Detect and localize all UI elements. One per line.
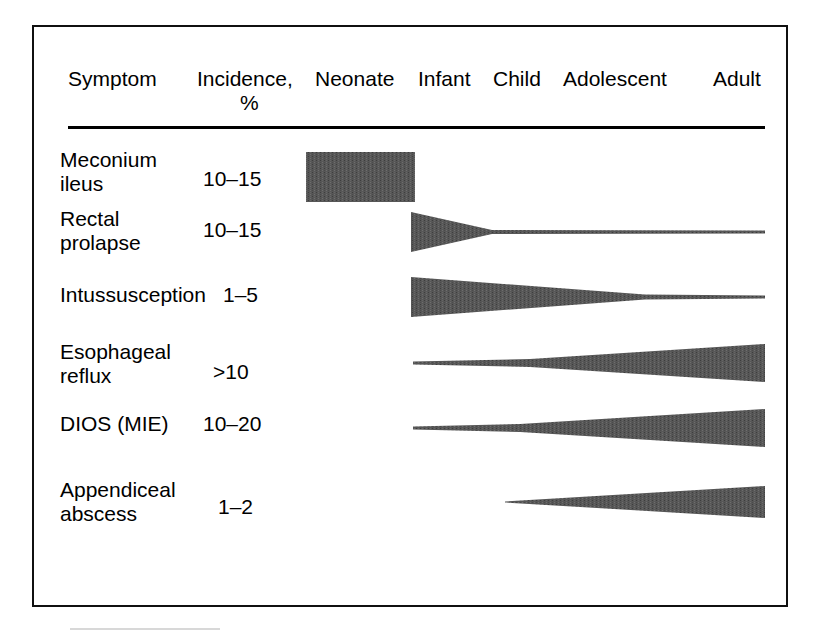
row-label-rectal-prolapse: Rectal prolapse [60,207,141,254]
row-label-intussusception: Intussusception [60,283,206,307]
header-divider-rule [68,126,765,129]
row-label-meconium-ileus: Meconium ileus [60,148,157,195]
row-incidence-meconium-ileus: 10–15 [203,167,261,191]
row-label-esophageal-reflux: Esophageal reflux [60,340,171,387]
row-incidence-dios-mie: 10–20 [203,412,261,436]
row-incidence-esophageal-reflux: >10 [213,360,249,384]
column-header-child: Child [493,68,541,90]
column-header-neonate: Neonate [315,68,394,90]
column-header-percent: % [240,92,259,114]
figure-root: Symptom Incidence, % Neonate Infant Chil… [0,0,814,637]
row-label-dios-mie: DIOS (MIE) [60,412,169,436]
row-incidence-appendiceal-abscess: 1–2 [218,495,253,519]
column-header-adolescent: Adolescent [563,68,667,90]
scan-artifact-line [70,628,220,630]
row-label-appendiceal-abscess: Appendiceal abscess [60,478,176,525]
column-header-symptom: Symptom [68,68,157,90]
row-incidence-intussusception: 1–5 [223,283,258,307]
row-incidence-rectal-prolapse: 10–15 [203,218,261,242]
column-header-incidence: Incidence, [197,68,293,90]
column-header-infant: Infant [418,68,471,90]
column-header-adult: Adult [713,68,761,90]
